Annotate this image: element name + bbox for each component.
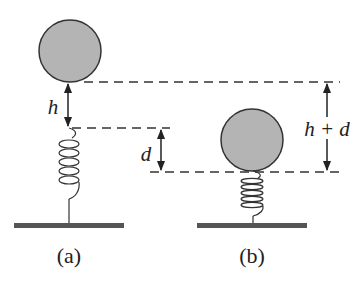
dimension-arrows — [68, 84, 327, 170]
panel-b: (b) — [197, 109, 307, 268]
label-h: h — [48, 95, 59, 119]
spring-b — [241, 171, 263, 224]
label-d: d — [141, 142, 152, 166]
dashed-lines — [72, 82, 340, 172]
caption-b: (b) — [239, 243, 265, 268]
ground-b — [197, 223, 307, 228]
ground-a — [14, 223, 124, 228]
spring-ball-diagram: (a) (b) h d h + d — [0, 0, 363, 281]
ball-a — [39, 20, 101, 82]
ball-b — [221, 109, 283, 171]
panel-a: (a) — [14, 20, 124, 268]
label-h-plus-d: h + d — [304, 117, 350, 141]
caption-a: (a) — [57, 243, 81, 268]
spring-a — [59, 128, 79, 224]
